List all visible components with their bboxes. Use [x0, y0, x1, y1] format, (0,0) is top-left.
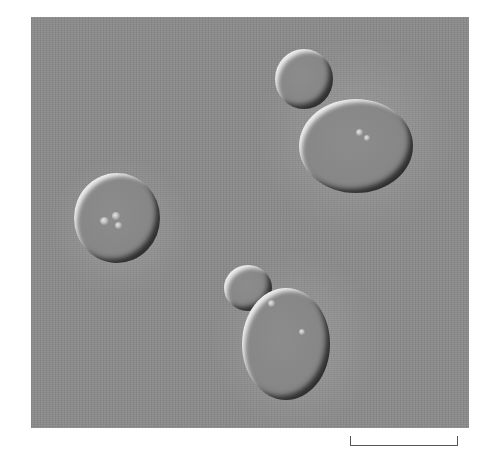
cell-inclusion: [299, 329, 305, 335]
yeast-cell-mother-top: [299, 99, 413, 193]
micrograph-image: [31, 17, 469, 428]
yeast-cell-mother-bottom: [242, 288, 330, 400]
yeast-bud-top: [275, 49, 333, 109]
cell-inclusion: [268, 300, 275, 307]
cell-inclusion: [356, 129, 363, 136]
cell-inclusion: [100, 217, 109, 225]
cell-inclusion: [364, 135, 370, 141]
scale-bar: [350, 436, 458, 446]
cell-inclusion: [112, 212, 120, 220]
cell-inclusion: [115, 222, 122, 229]
